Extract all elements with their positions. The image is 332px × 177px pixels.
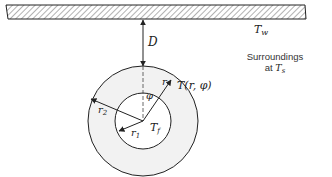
- angle-label: φ: [146, 90, 153, 101]
- wall-temperature-label: Tw: [254, 23, 268, 37]
- cylinder-near-wall-diagram: Tw D Surroundings at Ts φ r T(r, φ) r2 r…: [0, 0, 332, 177]
- surroundings-temp-label: at Ts: [265, 62, 286, 75]
- wall-plate: [6, 5, 306, 19]
- gap-label: D: [147, 35, 158, 49]
- surroundings-label: Surroundings: [247, 51, 304, 62]
- point-temperature-label: T(r, φ): [177, 79, 212, 92]
